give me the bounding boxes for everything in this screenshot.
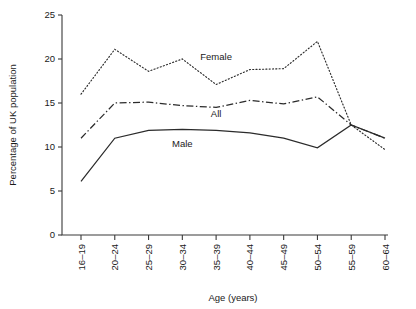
y-axis-tick-label: 25 [44, 9, 55, 20]
chart-figure: 0510152025Percentage of UK population16–… [0, 0, 416, 309]
x-axis-tick-label: 25–29 [143, 244, 154, 270]
y-axis-tick-label: 0 [50, 229, 55, 240]
series-label-male: Male [172, 138, 193, 149]
axis-lines [62, 15, 388, 235]
series-line-male [81, 125, 385, 181]
y-axis-title: Percentage of UK population [7, 64, 18, 185]
x-axis-tick-label: 16–19 [76, 244, 87, 270]
series-label-female: Female [200, 51, 232, 62]
x-axis-tick-label: 30–34 [177, 244, 188, 270]
x-axis-tick-label: 55–59 [346, 244, 357, 270]
x-axis-tick-label: 40–44 [244, 244, 255, 270]
y-axis-tick-label: 15 [44, 97, 55, 108]
x-axis-title: Age (years) [208, 292, 257, 303]
series-label-all: All [211, 108, 222, 119]
y-axis-tick-label: 20 [44, 53, 55, 64]
x-axis-tick-label: 50–54 [312, 244, 323, 270]
x-axis-tick-label: 20–24 [109, 244, 120, 270]
x-axis-tick-label: 45–49 [278, 244, 289, 270]
y-axis-tick-label: 10 [44, 141, 55, 152]
line-chart: 0510152025Percentage of UK population16–… [0, 0, 416, 309]
x-axis-tick-label: 35–39 [211, 244, 222, 270]
x-axis-tick-label: 60–64 [380, 244, 391, 270]
y-axis-tick-label: 5 [50, 185, 55, 196]
